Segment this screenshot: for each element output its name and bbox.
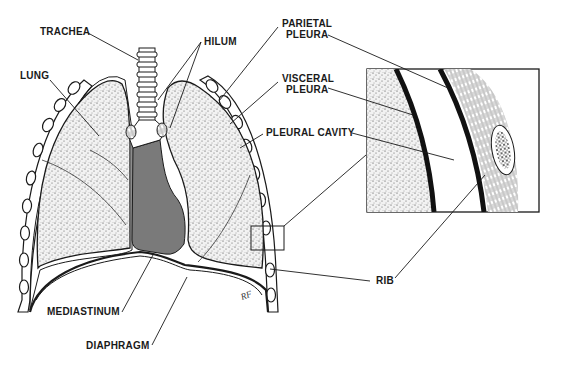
label-pleural-cavity: PLEURAL CAVITY (266, 127, 355, 138)
label-trachea: TRACHEA (40, 26, 90, 37)
artist-signature: RF (238, 289, 253, 303)
label-hilum: HILUM (204, 36, 237, 47)
label-lung: LUNG (20, 70, 49, 81)
pleura-diagram: RF TRACHEA HILUM LUNG PARIETAL PLEURA VI… (0, 0, 571, 365)
label-visceral-line2: PLEURA (286, 84, 328, 95)
inset-magnified-view (367, 69, 539, 212)
left-lung (37, 81, 130, 268)
label-mediastinum: MEDIASTINUM (47, 306, 120, 317)
trachea (126, 48, 167, 148)
label-rib: RIB (376, 275, 394, 286)
label-parietal-line2: PLEURA (286, 29, 328, 40)
label-diaphragm: DIAPHRAGM (86, 340, 149, 351)
label-visceral-line1: VISCERAL (282, 73, 334, 84)
label-parietal-line1: PARIETAL (282, 18, 332, 29)
